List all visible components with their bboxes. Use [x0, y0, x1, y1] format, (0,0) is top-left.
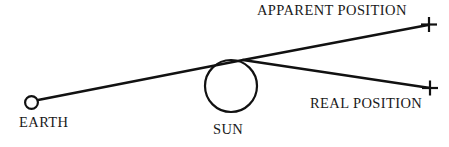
- earth-label: EARTH: [19, 115, 68, 130]
- real-position-label: REAL POSITION: [310, 96, 422, 111]
- apparent-position-cross-icon: [421, 17, 437, 32]
- real-position-ray: [243, 60, 430, 88]
- sun-circle: [205, 60, 257, 112]
- diagram-canvas: EARTH SUN APPARENT POSITION REAL POSITIO…: [0, 0, 449, 147]
- line-of-sight-ray: [38, 25, 428, 100]
- real-position-cross-icon: [422, 81, 438, 96]
- apparent-position-label: APPARENT POSITION: [257, 3, 407, 18]
- earth-circle: [25, 96, 38, 109]
- sun-label: SUN: [213, 122, 243, 137]
